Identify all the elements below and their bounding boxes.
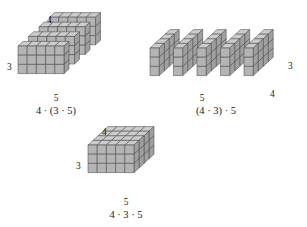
right-expression: (4 · 3) · 5 xyxy=(196,106,236,117)
bottom-dim-left: 3 xyxy=(76,162,81,172)
left-expression: 4 · (3 · 5) xyxy=(36,106,76,117)
bottom-expression: 4 · 3 · 5 xyxy=(109,210,142,221)
right-dim-right: 3 xyxy=(288,62,293,72)
left-dim-top: 4 xyxy=(47,16,52,26)
right-dim-bottom-right: 4 xyxy=(270,90,275,100)
bottom-dim-bottom: 5 xyxy=(124,198,129,208)
bottom-dim-top: 4 xyxy=(102,128,107,138)
right-dim-bottom-left: 5 xyxy=(200,94,205,104)
left-dim-left: 3 xyxy=(7,63,12,73)
figure-canvas: 4 3 5 4 · (3 · 5) 3 5 4 (4 · 3) · 5 4 3 … xyxy=(0,0,307,227)
left-dim-bottom: 5 xyxy=(54,94,59,104)
